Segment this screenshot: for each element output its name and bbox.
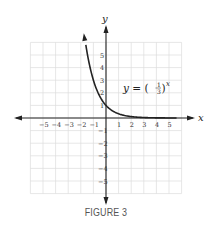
x-tick-label: −2 — [77, 121, 87, 129]
x-tick-label: −5 — [39, 121, 49, 129]
x-axis-left-arrow-icon — [14, 116, 22, 121]
y-tick-label: 2 — [100, 89, 104, 97]
x-tick-label: 2 — [130, 121, 134, 129]
x-tick-label: 4 — [155, 121, 159, 129]
y-tick-label: 5 — [100, 52, 104, 60]
y-tick-label: −3 — [98, 152, 108, 160]
curve-arrow-icon — [82, 33, 87, 41]
svg-text:y = (: y = ( — [122, 82, 149, 94]
y-axis-down-arrow-icon — [104, 197, 109, 205]
x-tick-label: −3 — [64, 121, 74, 129]
exponential-graph: x y −5−4−3−2−112345 54321−1−2−3−4−5 y = … — [0, 0, 212, 232]
x-tick-label: −4 — [52, 121, 62, 129]
x-tick-label: 3 — [142, 121, 146, 129]
svg-text:1: 1 — [157, 81, 161, 88]
x-tick-label: 1 — [117, 121, 121, 129]
y-tick-label: 4 — [100, 64, 104, 72]
svg-text:): ) — [162, 82, 166, 94]
y-axis-label: y — [101, 13, 108, 24]
x-tick-label: 5 — [168, 121, 172, 129]
y-tick-label: −1 — [98, 127, 108, 135]
equation-label: y = ( 1 3 ) x — [122, 80, 170, 95]
y-tick-label: 3 — [100, 77, 104, 85]
y-tick-label: −5 — [98, 178, 108, 186]
y-tick-label: −2 — [98, 140, 108, 148]
y-axis-up-arrow-icon — [104, 25, 109, 33]
x-axis-label: x — [198, 112, 204, 123]
svg-text:x: x — [166, 80, 170, 88]
x-axis-right-arrow-icon — [187, 116, 195, 121]
y-tick-label: −4 — [98, 165, 108, 173]
svg-text:3: 3 — [157, 88, 161, 95]
figure-caption: FIGURE 3 — [16, 206, 196, 218]
